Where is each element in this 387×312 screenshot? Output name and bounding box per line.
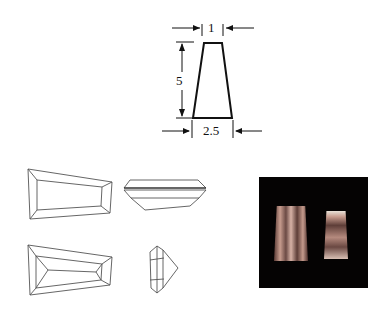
height-label: 5 [176,73,183,89]
pavilion-view [28,245,112,295]
bottom-width-label: 2.5 [203,123,219,139]
gemstone-photo [259,177,368,288]
gem-right [324,211,348,259]
crown-view [28,169,112,219]
gem-left [274,206,308,261]
profile-view [124,180,206,210]
top-width-label: 1 [208,20,215,36]
trapezoid-outline [193,43,232,118]
end-view [150,246,178,293]
